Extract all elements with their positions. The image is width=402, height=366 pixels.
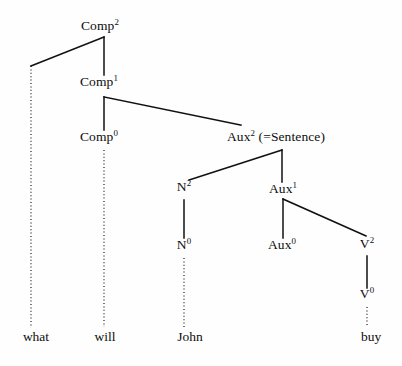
tree-node-comp0: Comp0 <box>80 130 118 144</box>
node-bar-level-n2: 2 <box>187 178 192 188</box>
node-base-v2: V <box>360 236 370 251</box>
node-base-aux2: Aux <box>227 129 251 144</box>
node-base-aux1: Aux <box>269 181 293 196</box>
node-base-comp0: Comp <box>80 129 113 144</box>
tree-node-v2: V2 <box>360 237 374 251</box>
syntax-tree-figure: Comp2Comp1Comp0Aux2 (=Sentence)N2Aux1N0A… <box>0 0 402 366</box>
tree-node-n2: N2 <box>177 180 191 194</box>
node-bar-level-aux0: 0 <box>292 236 297 246</box>
tree-terminal-what: what <box>23 330 49 344</box>
node-base-n2: N <box>177 179 187 194</box>
node-base-aux0: Aux <box>268 237 292 252</box>
node-bar-level-n0: 0 <box>187 236 192 246</box>
tree-node-n0: N0 <box>177 238 191 252</box>
node-base-n0: N <box>177 237 187 252</box>
tree-node-aux1: Aux1 <box>269 182 297 196</box>
tree-edges-layer <box>0 0 402 366</box>
tree-terminal-buy: buy <box>361 330 381 344</box>
tree-node-aux2: Aux2 (=Sentence) <box>227 130 325 144</box>
tree-edge-comp1-aux2 <box>104 97 241 125</box>
tree-node-v0: V0 <box>360 287 374 301</box>
node-base-comp1: Comp <box>80 74 113 89</box>
node-bar-level-comp0: 0 <box>113 128 118 138</box>
node-bar-level-aux1: 1 <box>293 180 298 190</box>
tree-node-comp2: Comp2 <box>81 19 119 33</box>
tree-terminal-will: will <box>94 330 115 344</box>
tree-edge-aux1-v2 <box>283 199 366 236</box>
node-bar-level-v0: 0 <box>370 285 375 295</box>
node-bar-level-comp2: 2 <box>114 17 119 27</box>
tree-edge-aux2-n2 <box>189 150 282 180</box>
node-bar-level-v2: 2 <box>370 235 375 245</box>
tree-terminal-john: John <box>177 330 203 344</box>
node-base-v0: V <box>360 286 370 301</box>
tree-node-aux0: Aux0 <box>268 238 296 252</box>
tree-edge-comp2-trace-left <box>31 37 104 66</box>
tree-node-comp1: Comp1 <box>80 75 118 89</box>
node-base-comp2: Comp <box>81 18 114 33</box>
node-bar-level-comp1: 1 <box>113 73 118 83</box>
node-annotation-aux2: (=Sentence) <box>255 129 325 144</box>
